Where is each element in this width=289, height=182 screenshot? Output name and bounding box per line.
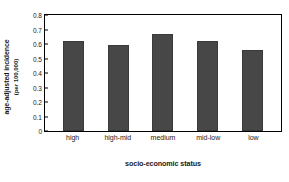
x-axis-tick-label: low — [231, 134, 276, 146]
plot-area: 00.10.20.30.40.50.60.70.8 — [44, 14, 282, 132]
y-axis-tick-label: 0.8 — [33, 12, 42, 19]
x-axis-title: socio-economic status — [44, 159, 282, 168]
y-axis-tick-label: 0 — [38, 128, 42, 135]
bar-slot — [230, 15, 275, 131]
y-axis-title: age-adjusted incidence (per 100,000) — [3, 13, 29, 141]
bar-slot — [96, 15, 141, 131]
bar-series — [45, 15, 281, 131]
bar-mid-low[interactable] — [197, 41, 218, 131]
x-axis-tick-label: high — [50, 134, 95, 146]
y-axis-tick-label: 0.1 — [33, 113, 42, 120]
y-axis-tick-label: 0.3 — [33, 84, 42, 91]
y-axis-tick-label: 0.6 — [33, 41, 42, 48]
y-axis-title-line2: (per 100,000) — [12, 13, 21, 141]
bar-high[interactable] — [63, 41, 84, 131]
bar-chart-figure: age-adjusted incidence (per 100,000) 00.… — [0, 0, 289, 182]
x-axis-tick-label: medium — [140, 134, 185, 146]
x-axis-tick-label: high-mid — [95, 134, 140, 146]
bar-high-mid[interactable] — [108, 45, 129, 131]
x-axis-tick-label: mid-low — [186, 134, 231, 146]
bar-slot — [185, 15, 230, 131]
y-axis-title-line1: age-adjusted incidence — [3, 13, 12, 141]
y-axis-tick-label: 0.2 — [33, 99, 42, 106]
bar-medium[interactable] — [152, 34, 173, 131]
y-axis-tick-label: 0.5 — [33, 55, 42, 62]
bar-slot — [51, 15, 96, 131]
bar-slot — [141, 15, 186, 131]
x-axis-tick-labels: highhigh-midmediummid-lowlow — [44, 134, 282, 146]
y-axis-tick-label: 0.4 — [33, 70, 42, 77]
y-axis-tick-label: 0.7 — [33, 26, 42, 33]
bar-low[interactable] — [242, 50, 263, 131]
